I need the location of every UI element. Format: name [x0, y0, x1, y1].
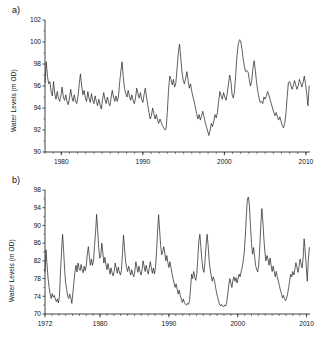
svg-text:2000: 2000 — [230, 320, 245, 327]
panel-a: a) Water Levels (m OD) 90929496981001021… — [0, 0, 319, 172]
svg-text:94: 94 — [34, 204, 42, 211]
svg-text:96: 96 — [34, 82, 42, 89]
svg-text:1990: 1990 — [136, 158, 151, 165]
svg-text:74: 74 — [34, 293, 42, 300]
svg-text:1980: 1980 — [54, 158, 69, 165]
panel-b-plot: 707478828690949819721980199020002010 — [0, 172, 319, 341]
svg-text:2000: 2000 — [217, 158, 232, 165]
svg-text:70: 70 — [34, 310, 42, 317]
svg-text:90: 90 — [34, 148, 42, 155]
svg-text:1990: 1990 — [162, 320, 177, 327]
figure-two-hydrographs: a) Water Levels (m OD) 90929496981001021… — [0, 0, 319, 341]
svg-text:2010: 2010 — [299, 158, 314, 165]
svg-text:92: 92 — [34, 126, 42, 133]
svg-text:94: 94 — [34, 104, 42, 111]
svg-text:82: 82 — [34, 257, 42, 264]
svg-text:1980: 1980 — [93, 320, 108, 327]
svg-text:100: 100 — [30, 38, 41, 45]
svg-text:98: 98 — [34, 60, 42, 67]
panel-a-plot: 90929496981001021980199020002010 — [0, 0, 319, 172]
data-line — [45, 197, 309, 307]
panel-b: b) Water Levels (m OD) 70747882869094981… — [0, 172, 319, 341]
svg-text:86: 86 — [34, 239, 42, 246]
svg-text:102: 102 — [30, 16, 41, 23]
svg-text:2010: 2010 — [299, 320, 314, 327]
svg-text:78: 78 — [34, 275, 42, 282]
data-line — [45, 40, 309, 136]
svg-text:98: 98 — [34, 186, 42, 193]
svg-text:1972: 1972 — [38, 320, 53, 327]
svg-text:90: 90 — [34, 222, 42, 229]
